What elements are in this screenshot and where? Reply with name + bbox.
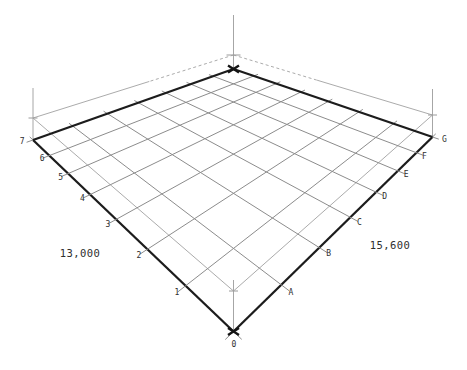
col-label-D: D bbox=[382, 192, 387, 201]
row-label-2: 2 bbox=[137, 251, 142, 260]
col-label-G: G bbox=[442, 135, 447, 144]
gridline-v-1 bbox=[178, 121, 398, 292]
edge-back-right bbox=[234, 69, 433, 137]
edge-back-left bbox=[33, 69, 234, 140]
gridline-u-6 bbox=[209, 75, 423, 156]
col-label-C: C bbox=[357, 218, 362, 227]
grid-plan-svg: 1234567ABCDEFG bbox=[0, 0, 467, 370]
dimension-label-right: 15,600 bbox=[370, 239, 410, 251]
gridline-v-3 bbox=[109, 99, 333, 223]
gridline-u-5 bbox=[187, 82, 405, 173]
row-label-6: 6 bbox=[40, 154, 45, 163]
row-label-1: 1 bbox=[175, 288, 180, 297]
edge-front-left bbox=[33, 140, 234, 332]
upper-outline-back-right-dashed bbox=[234, 55, 318, 80]
gridline-v-2 bbox=[140, 109, 363, 254]
upper-outline-front-right bbox=[234, 115, 433, 291]
row-label-5: 5 bbox=[58, 173, 63, 182]
dimension-label-left: 13,000 bbox=[60, 247, 100, 259]
row-label-4: 4 bbox=[80, 194, 85, 203]
gridline-u-2 bbox=[104, 111, 328, 252]
gridline-v-5 bbox=[61, 82, 280, 177]
col-label-F: F bbox=[422, 152, 427, 161]
col-label-B: B bbox=[326, 249, 331, 258]
col-label-E: E bbox=[404, 170, 409, 179]
row-label-7: 7 bbox=[20, 137, 25, 146]
col-label-A: A bbox=[289, 288, 294, 297]
upper-outline-back-right bbox=[317, 80, 432, 115]
gridline-v-6 bbox=[43, 74, 258, 158]
edge-front-right bbox=[234, 137, 433, 332]
upper-outline-back-left bbox=[33, 81, 149, 118]
gridline-u-7-front-tick bbox=[433, 137, 439, 139]
row-label-3: 3 bbox=[106, 220, 111, 229]
drawing-canvas: 1234567ABCDEFG 13,000 15,600 0 bbox=[0, 0, 467, 370]
origin-grid-label: 0 bbox=[232, 340, 237, 349]
upper-outline-front-left bbox=[33, 118, 234, 291]
gridline-v-7-front-tick bbox=[27, 140, 33, 142]
upper-outline-back-left-dashed bbox=[149, 55, 233, 81]
